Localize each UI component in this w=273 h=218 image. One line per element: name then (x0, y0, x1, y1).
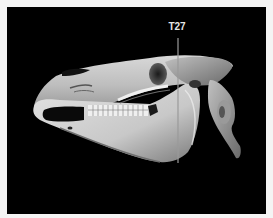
diastema-gap (43, 106, 84, 121)
horse-skull-render (7, 7, 266, 214)
ct-render-panel (7, 7, 266, 214)
image-frame: T27 (0, 0, 273, 218)
mental-foramen (68, 127, 73, 130)
teeth-row (88, 105, 148, 116)
orbit (149, 63, 167, 85)
t27-marker-label: T27 (164, 22, 190, 32)
